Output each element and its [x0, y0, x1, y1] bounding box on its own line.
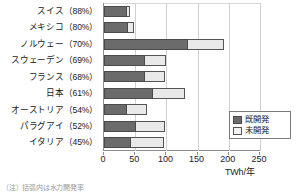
category-label: フランス（68%）: [0, 69, 101, 85]
x-axis-unit-label: TWh/年: [225, 165, 255, 178]
bar-segment-developed: [104, 121, 136, 132]
x-axis-tick-label: 100: [158, 155, 173, 164]
legend: 既開発 未開発: [229, 111, 291, 139]
bar-row: [104, 36, 260, 52]
category-label: 日本（61%）: [0, 85, 101, 101]
bar-segment-developed: [104, 55, 145, 66]
legend-swatch-developed-icon: [233, 116, 242, 124]
legend-label-developed: 既開発: [245, 115, 268, 123]
stacked-bar: [104, 137, 164, 148]
legend-swatch-undeveloped-icon: [233, 127, 242, 135]
category-label: スウェーデン（69%）: [0, 52, 101, 68]
bar-row: [104, 3, 260, 19]
category-label: オーストリア（54%）: [0, 102, 101, 118]
x-axis-tick-label: 250: [251, 155, 266, 164]
legend-label-undeveloped: 未開発: [245, 126, 268, 134]
category-label: イタリア（45%）: [0, 135, 101, 151]
bar-segment-undeveloped: [131, 137, 164, 148]
bar-segment-undeveloped: [188, 39, 224, 50]
bar-segment-undeveloped: [127, 6, 130, 17]
bar-row: [104, 52, 260, 68]
legend-item-undeveloped: 未開発: [233, 125, 287, 136]
bar-row: [104, 69, 260, 85]
x-axis-tick-label: 0: [100, 155, 105, 164]
category-label-column: スイス（88%） メキシコ（80%） ノルウェー（70%） スウェーデン（69%…: [0, 3, 101, 151]
bar-segment-developed: [104, 71, 145, 82]
stacked-bar: [104, 22, 134, 33]
bar-segment-undeveloped: [153, 88, 185, 99]
bar-segment-undeveloped: [145, 55, 166, 66]
bar-segment-undeveloped: [136, 121, 165, 132]
bar-segment-developed: [104, 39, 188, 50]
bar-segment-developed: [104, 104, 127, 115]
legend-item-developed: 既開発: [233, 114, 287, 125]
category-label: スイス（88%）: [0, 3, 101, 19]
x-axis-tick-label: 200: [220, 155, 235, 164]
category-label: ノルウェー（70%）: [0, 36, 101, 52]
bar-row: [104, 19, 260, 35]
category-label: メキシコ（80%）: [0, 19, 101, 35]
stacked-bar: [104, 71, 165, 82]
category-label: パラグアイ（52%）: [0, 118, 101, 134]
bar-row: [104, 85, 260, 101]
bar-segment-developed: [104, 6, 127, 17]
x-axis: 050100150200250: [103, 152, 259, 166]
hydropower-development-chart: スイス（88%） メキシコ（80%） ノルウェー（70%） スウェーデン（69%…: [0, 0, 302, 193]
x-axis-tick-label: 150: [189, 155, 204, 164]
x-axis-tick-label: 50: [129, 155, 139, 164]
bar-segment-developed: [104, 88, 153, 99]
bar-segment-undeveloped: [145, 71, 164, 82]
stacked-bar: [104, 55, 166, 66]
bar-segment-developed: [104, 137, 131, 148]
stacked-bar: [104, 39, 224, 50]
bar-segment-undeveloped: [128, 22, 134, 33]
bar-segment-undeveloped: [127, 104, 147, 115]
footnote: （注）括弧内は水力開発率: [2, 182, 84, 192]
stacked-bar: [104, 104, 147, 115]
stacked-bar: [104, 88, 185, 99]
stacked-bar: [104, 121, 165, 132]
stacked-bar: [104, 6, 130, 17]
bar-segment-developed: [104, 22, 128, 33]
